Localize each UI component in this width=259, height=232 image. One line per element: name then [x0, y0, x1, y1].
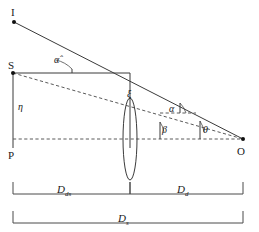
- label-distance-d-d: Dd: [176, 183, 189, 198]
- ray-image-to-observer: [14, 22, 243, 139]
- label-angle-beta: β: [161, 124, 167, 135]
- label-image-point: I: [11, 6, 15, 18]
- label-plane-origin-point: P: [8, 149, 14, 161]
- label-offset-eta: η: [18, 101, 23, 112]
- label-offset-xi: ξ: [127, 88, 132, 100]
- label-distance-d-ds: Dds: [56, 183, 71, 198]
- dashed-source-to-observer: [13, 73, 243, 139]
- lensing-diagram-svg: I S P O α̂ α β θ η ξ Dds Dd Ds: [0, 0, 259, 232]
- label-distance-d-s: Ds: [117, 212, 129, 227]
- source-point-dot: [11, 71, 15, 75]
- bracket-d-ds: [13, 182, 130, 194]
- observer-point-dot: [241, 137, 245, 141]
- label-source-point: S: [8, 59, 14, 71]
- label-observer-point: O: [237, 145, 245, 157]
- label-angle-alpha: α: [169, 103, 175, 114]
- label-angle-alpha-hat: α̂: [54, 54, 63, 65]
- label-angle-theta: θ: [203, 124, 208, 135]
- lensing-diagram-container: I S P O α̂ α β θ η ξ Dds Dd Ds: [0, 0, 259, 232]
- image-point-dot: [12, 20, 16, 24]
